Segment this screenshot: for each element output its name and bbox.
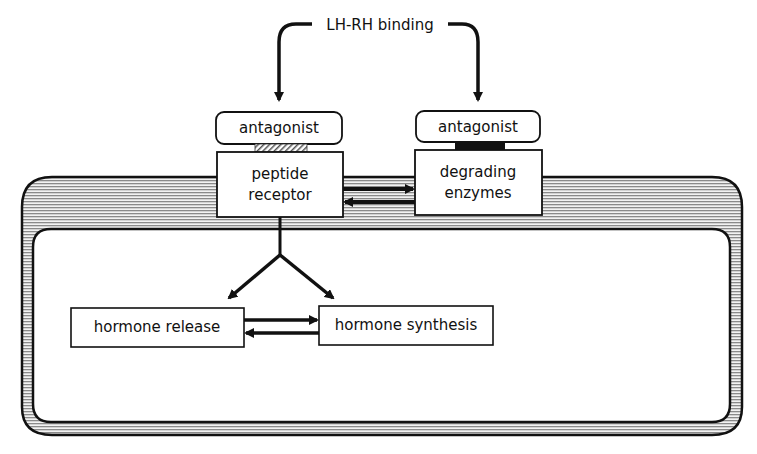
receptor-line1: peptide (251, 165, 308, 183)
hormone-synthesis-label: hormone synthesis (335, 316, 478, 334)
lhrh-diagram: LH-RH binding antagonist antagonist pept… (0, 0, 757, 454)
hormone-release-label: hormone release (94, 318, 221, 336)
enzymes-line1: degrading (440, 163, 516, 181)
lhrh-binding-label: LH-RH binding (326, 16, 433, 34)
hormone-release-box: hormone release (71, 308, 244, 347)
left-antagonist-box: antagonist (216, 112, 342, 144)
left-antagonist-label: antagonist (239, 119, 319, 137)
hatched-binding-site (255, 144, 307, 152)
hormone-synthesis-box: hormone synthesis (319, 306, 493, 345)
receptor-line2: receptor (248, 186, 312, 204)
right-antagonist-label: antagonist (438, 118, 518, 136)
degrading-enzymes-box: degrading enzymes (415, 150, 542, 215)
binding-arrow-left (279, 24, 312, 100)
peptide-receptor-box: peptide receptor (217, 152, 343, 217)
solid-binding-site (455, 142, 505, 150)
binding-arrow-right (448, 24, 478, 100)
enzymes-line2: enzymes (444, 184, 511, 202)
right-antagonist-box: antagonist (416, 111, 540, 142)
